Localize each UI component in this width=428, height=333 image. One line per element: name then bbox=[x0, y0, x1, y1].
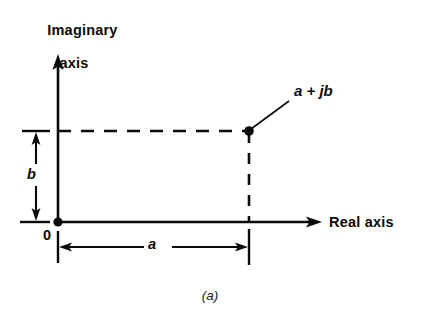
figure-caption: (a) bbox=[189, 288, 231, 303]
real-axis-line bbox=[58, 216, 322, 227]
origin-label: 0 bbox=[43, 227, 51, 243]
point-label-a-plus-jb: a + jb bbox=[294, 83, 333, 100]
real-axis-title: Real axis bbox=[329, 214, 394, 230]
imaginary-axis-title: Imaginary axis bbox=[16, 6, 132, 103]
dimension-label-a: a bbox=[148, 236, 156, 252]
origin-dot bbox=[53, 217, 62, 226]
complex-plane-figure: Imaginary axis Real axis a + jb b a 0 (a… bbox=[0, 0, 428, 333]
imaginary-axis-title-line2: axis bbox=[16, 55, 132, 71]
dimension-label-b: b bbox=[27, 166, 36, 182]
point-label-leader-line bbox=[251, 101, 289, 129]
imaginary-axis-title-line1: Imaginary bbox=[47, 22, 117, 38]
